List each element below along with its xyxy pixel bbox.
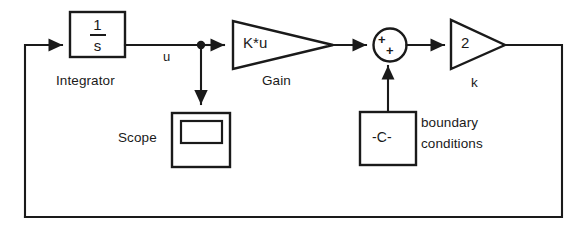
constant-block-label-line2: conditions bbox=[421, 134, 483, 155]
integrator-numerator: 1 bbox=[70, 17, 125, 32]
gain-block-label: Gain bbox=[262, 74, 291, 89]
scope-screen bbox=[181, 121, 222, 143]
signal-label-u: u bbox=[163, 50, 170, 64]
fraction-bar bbox=[90, 34, 106, 36]
sum-sign-bottom: + bbox=[386, 44, 394, 58]
output-gain-block-outline bbox=[451, 20, 505, 69]
constant-value-label: -C- bbox=[372, 130, 392, 145]
integrator-transfer-function: 1 s bbox=[70, 17, 125, 53]
constant-block-label-line1: boundary bbox=[421, 113, 478, 134]
integrator-denominator: s bbox=[70, 38, 125, 53]
output-gain-value-label: 2 bbox=[461, 35, 469, 51]
scope-block-label: Scope bbox=[118, 131, 157, 146]
output-gain-block-label: k bbox=[471, 76, 478, 91]
gain-expression-label: K*u bbox=[243, 35, 268, 51]
block-diagram-canvas: 1 s Integrator u K*u Gain + + 2 k Scope … bbox=[0, 0, 588, 230]
integrator-block-label: Integrator bbox=[56, 74, 115, 89]
wire-feedback-left bbox=[25, 45, 62, 217]
sum-sign-top: + bbox=[378, 33, 386, 47]
wire-feedback-loop bbox=[25, 45, 562, 217]
